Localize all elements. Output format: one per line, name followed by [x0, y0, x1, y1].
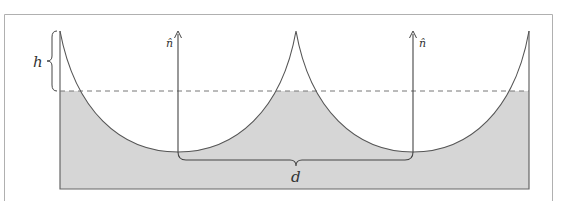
normal-label-right: n̂	[419, 37, 426, 50]
height-label: h	[33, 53, 43, 71]
normal-label-left: n̂	[166, 37, 173, 50]
liquid-fill	[60, 31, 529, 189]
height-brace	[47, 31, 57, 91]
period-label: d	[291, 168, 301, 186]
figure: n̂ n̂ d h	[0, 0, 563, 201]
